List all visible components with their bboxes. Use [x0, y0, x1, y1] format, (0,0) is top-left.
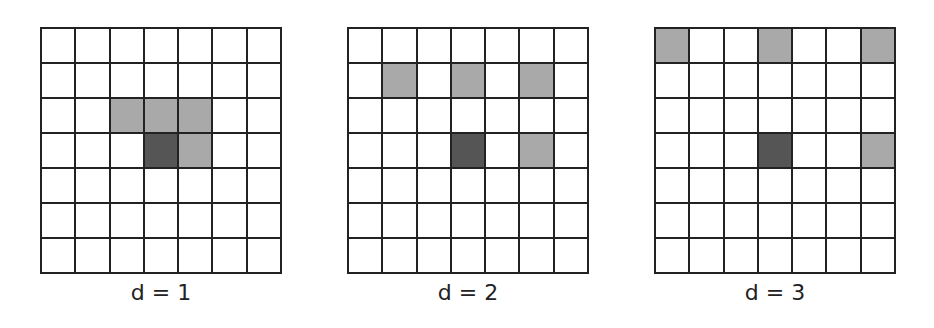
grid-cell	[179, 64, 211, 97]
grid-cell	[486, 134, 518, 167]
neighbor-cell	[111, 99, 143, 132]
grid-cell	[555, 29, 587, 62]
grid-cell	[690, 64, 722, 97]
grid-cell	[111, 29, 143, 62]
grid-cell	[179, 29, 211, 62]
grid-cell	[179, 239, 211, 272]
grid-cell	[486, 64, 518, 97]
grid-cell	[793, 239, 825, 272]
grid-cell	[759, 239, 791, 272]
grid-cell	[383, 169, 415, 202]
grid-cell	[520, 99, 552, 132]
grid	[40, 27, 282, 274]
grid-cell	[248, 169, 280, 202]
grid-cell	[145, 29, 177, 62]
grid-cell	[248, 134, 280, 167]
grid-cell	[656, 64, 688, 97]
grid-cell	[452, 204, 484, 237]
grid-cell	[383, 204, 415, 237]
grid-cell	[759, 169, 791, 202]
grid-cell	[111, 239, 143, 272]
panel-d2: d = 2	[347, 27, 589, 306]
grid-cell	[418, 169, 450, 202]
grid-cell	[690, 239, 722, 272]
grid-cell	[793, 99, 825, 132]
grid-cell	[213, 239, 245, 272]
grid-cell	[862, 99, 894, 132]
neighbor-cell	[759, 29, 791, 62]
center-cell	[759, 134, 791, 167]
grid-cell	[690, 99, 722, 132]
grid-cell	[690, 169, 722, 202]
grid-cell	[827, 29, 859, 62]
grid-cell	[725, 29, 757, 62]
grid-cell	[452, 29, 484, 62]
grid-cell	[248, 239, 280, 272]
grid-cell	[179, 169, 211, 202]
grid-cell	[725, 169, 757, 202]
grid-cell	[349, 204, 381, 237]
grid-cell	[827, 99, 859, 132]
grid	[347, 27, 589, 274]
grid-cell	[827, 204, 859, 237]
grid-cell	[486, 239, 518, 272]
grid-cell	[248, 204, 280, 237]
grid-cell	[793, 169, 825, 202]
grid-cell	[76, 134, 108, 167]
grid-cell	[349, 29, 381, 62]
neighbor-cell	[383, 64, 415, 97]
grid-cell	[213, 134, 245, 167]
grid-cell	[690, 29, 722, 62]
grid-cell	[862, 239, 894, 272]
grid-cell	[42, 134, 74, 167]
grid-cell	[555, 169, 587, 202]
grid-cell	[248, 29, 280, 62]
grid-cell	[725, 99, 757, 132]
neighbor-cell	[656, 29, 688, 62]
grid-cell	[42, 29, 74, 62]
grid-cell	[76, 64, 108, 97]
grid-cell	[383, 29, 415, 62]
grid-cell	[42, 64, 74, 97]
neighbor-cell	[179, 99, 211, 132]
grid-cell	[349, 134, 381, 167]
grid-cell	[520, 169, 552, 202]
grid-cell	[759, 204, 791, 237]
grid-cell	[418, 64, 450, 97]
grid-cell	[76, 29, 108, 62]
grid-cell	[486, 169, 518, 202]
grid-cell	[383, 99, 415, 132]
panel-label: d = 2	[347, 280, 589, 306]
grid-cell	[76, 204, 108, 237]
grid-cell	[690, 134, 722, 167]
grid-cell	[111, 169, 143, 202]
grid-cell	[111, 134, 143, 167]
neighbor-cell	[145, 99, 177, 132]
grid-cell	[418, 239, 450, 272]
grid-cell	[486, 29, 518, 62]
panel-d1: d = 1	[40, 27, 282, 306]
grid-cell	[555, 239, 587, 272]
grid-cell	[213, 99, 245, 132]
grid-cell	[827, 64, 859, 97]
grid-cell	[656, 204, 688, 237]
grid-cell	[793, 134, 825, 167]
grid-cell	[145, 169, 177, 202]
grid-cell	[42, 169, 74, 202]
panel-label: d = 1	[40, 280, 282, 306]
grid-cell	[213, 204, 245, 237]
grid-cell	[349, 239, 381, 272]
grid-cell	[418, 99, 450, 132]
grid-cell	[213, 169, 245, 202]
grid-cell	[145, 64, 177, 97]
grid-cell	[725, 204, 757, 237]
grid-cell	[383, 239, 415, 272]
grid-cell	[555, 99, 587, 132]
grid-cell	[827, 134, 859, 167]
grid-cell	[76, 169, 108, 202]
grid-cell	[248, 99, 280, 132]
grid-cell	[793, 204, 825, 237]
grid-cell	[213, 64, 245, 97]
grid-cell	[213, 29, 245, 62]
grid-cell	[76, 99, 108, 132]
